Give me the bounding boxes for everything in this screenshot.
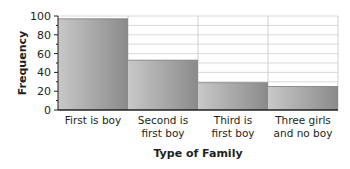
x-category-label: Second isfirst boy <box>128 114 198 140</box>
x-category-label: Third isfirst boy <box>198 114 268 140</box>
x-category-label: First is boy <box>58 114 128 127</box>
y-tick-label: 100 <box>25 10 51 23</box>
bar <box>58 19 128 110</box>
y-tick-label: 0 <box>25 104 51 117</box>
x-category-label: Three girlsand no boy <box>268 114 338 140</box>
y-tick-label: 80 <box>25 28 51 41</box>
y-tick-label: 40 <box>25 66 51 79</box>
plot-area <box>0 0 350 169</box>
y-tick-label: 60 <box>25 47 51 60</box>
x-axis-title: Type of Family <box>153 147 242 160</box>
bar-chart: Frequency 020406080100 First is boySecon… <box>0 0 350 169</box>
bar <box>268 87 338 111</box>
y-tick-label: 20 <box>25 85 51 98</box>
bar <box>128 60 198 110</box>
bar <box>198 83 268 110</box>
